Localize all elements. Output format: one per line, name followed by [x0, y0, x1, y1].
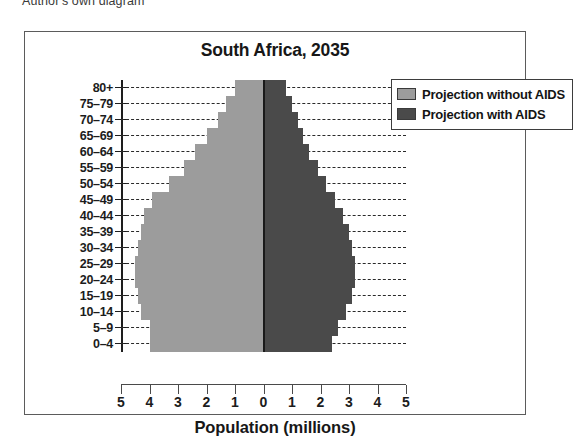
- chart-frame: South Africa, 2035 80+75–7970–7465–6960–…: [24, 31, 526, 415]
- bar-with-aids: [264, 256, 355, 272]
- bar-without-aids: [195, 144, 263, 160]
- bar-with-aids: [264, 224, 350, 240]
- x-axis-tick-label: 5: [394, 394, 418, 410]
- x-axis-tick: [321, 385, 322, 394]
- bar-without-aids: [184, 160, 264, 176]
- y-axis-label: 20–24: [51, 272, 117, 288]
- bar-with-aids: [264, 336, 332, 352]
- y-axis-label: 15–19: [51, 288, 117, 304]
- chart-legend: Projection without AIDS Projection with …: [391, 79, 573, 130]
- bar-without-aids: [218, 112, 264, 128]
- zero-axis-line: [263, 80, 265, 352]
- y-axis-label: 75–79: [51, 96, 117, 112]
- x-axis-tick-label: 0: [252, 394, 276, 410]
- x-axis-tick: [121, 385, 122, 394]
- y-axis-label: 0–4: [51, 336, 117, 352]
- x-axis-tick-label: 2: [309, 394, 333, 410]
- plot-area: [121, 80, 406, 352]
- x-axis-tick: [378, 385, 379, 394]
- legend-item-without-aids: Projection without AIDS: [397, 84, 565, 104]
- bar-without-aids: [141, 304, 264, 320]
- y-axis-label: 60–64: [51, 144, 117, 160]
- bar-without-aids: [144, 208, 264, 224]
- y-axis-label: 65–69: [51, 128, 117, 144]
- x-axis-tick: [292, 385, 293, 394]
- y-axis-labels: 80+75–7970–7465–6960–6455–5950–5445–4940…: [51, 80, 117, 352]
- bar-with-aids: [264, 240, 352, 256]
- x-axis-tick-label: 4: [138, 394, 162, 410]
- dark-gray-swatch: [397, 108, 416, 120]
- x-axis-tick-label: 2: [195, 394, 219, 410]
- y-axis-label: 45–49: [51, 192, 117, 208]
- bar-without-aids: [169, 176, 263, 192]
- x-axis-tick: [150, 385, 151, 394]
- bar-with-aids: [264, 208, 344, 224]
- bar-without-aids: [138, 240, 263, 256]
- x-axis-tick-label: 1: [223, 394, 247, 410]
- bar-with-aids: [264, 192, 335, 208]
- bar-without-aids: [150, 336, 264, 352]
- x-axis-tick-label: 5: [109, 394, 133, 410]
- chart-title: South Africa, 2035: [25, 40, 525, 61]
- bar-with-aids: [264, 80, 287, 96]
- x-axis-tick: [235, 385, 236, 394]
- bar-with-aids: [264, 272, 355, 288]
- bar-without-aids: [135, 272, 263, 288]
- bar-without-aids: [235, 80, 264, 96]
- y-axis-label: 30–34: [51, 240, 117, 256]
- bar-without-aids: [135, 256, 263, 272]
- x-axis-title: Population (millions): [25, 418, 525, 437]
- y-axis-label: 25–29: [51, 256, 117, 272]
- light-gray-swatch: [397, 88, 416, 100]
- bar-without-aids: [226, 96, 263, 112]
- y-axis-label: 80+: [51, 80, 117, 96]
- bar-with-aids: [264, 320, 338, 336]
- bar-with-aids: [264, 288, 352, 304]
- y-axis-label: 35–39: [51, 224, 117, 240]
- x-axis-line: [121, 384, 406, 393]
- x-axis-tick-label: 4: [366, 394, 390, 410]
- x-axis-tick: [349, 385, 350, 394]
- bar-with-aids: [264, 160, 318, 176]
- x-axis-tick: [207, 385, 208, 394]
- y-axis-label: 50–54: [51, 176, 117, 192]
- x-axis-tick: [178, 385, 179, 394]
- bar-with-aids: [264, 176, 327, 192]
- bar-with-aids: [264, 112, 298, 128]
- x-axis-tick: [264, 385, 265, 394]
- y-axis-label: 40–44: [51, 208, 117, 224]
- legend-label-with-aids: Projection with AIDS: [422, 107, 545, 122]
- y-axis-label: 10–14: [51, 304, 117, 320]
- bar-with-aids: [264, 128, 304, 144]
- x-axis-tick: [406, 385, 407, 394]
- bar-without-aids: [152, 192, 263, 208]
- bar-without-aids: [150, 320, 264, 336]
- y-axis-label: 55–59: [51, 160, 117, 176]
- bar-without-aids: [138, 288, 263, 304]
- x-axis-tick-label: 1: [280, 394, 304, 410]
- y-axis-label: 5–9: [51, 320, 117, 336]
- bar-with-aids: [264, 304, 347, 320]
- bar-without-aids: [207, 128, 264, 144]
- bar-without-aids: [141, 224, 264, 240]
- legend-label-without-aids: Projection without AIDS: [422, 87, 565, 102]
- bar-with-aids: [264, 144, 310, 160]
- bar-with-aids: [264, 96, 293, 112]
- x-axis-tick-labels: 54321012345: [121, 394, 406, 414]
- x-axis-tick-label: 3: [166, 394, 190, 410]
- legend-item-with-aids: Projection with AIDS: [397, 104, 565, 124]
- y-axis-label: 70–74: [51, 112, 117, 128]
- x-axis-tick-label: 3: [337, 394, 361, 410]
- figure-caption: Author's own diagram: [22, 0, 145, 8]
